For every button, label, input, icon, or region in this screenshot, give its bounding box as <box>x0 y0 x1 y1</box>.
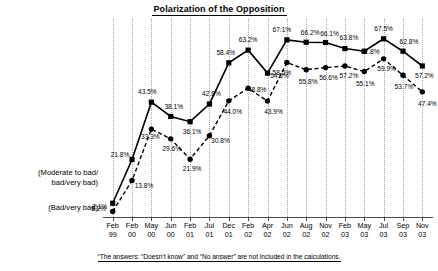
axis-caption-moderate-line1: (Moderate to bad/ <box>4 168 98 178</box>
data-point-circle <box>342 63 347 68</box>
data-label: 63.2% <box>239 37 258 44</box>
data-point-square <box>246 48 251 53</box>
data-label: 55.1% <box>356 80 375 87</box>
data-label: 66.1% <box>320 30 339 37</box>
data-point-square <box>149 100 154 105</box>
data-point-square <box>207 101 212 106</box>
data-label: 43.5% <box>138 89 157 96</box>
x-axis-label: Feb01 <box>184 222 196 239</box>
data-label: 13.8% <box>135 182 154 189</box>
data-label: 21.9% <box>183 166 202 173</box>
data-point-square <box>323 40 328 45</box>
data-label: 38.1% <box>164 104 183 111</box>
data-label: 29.6% <box>162 146 181 153</box>
series-markers-moderate-to-bad <box>110 36 425 206</box>
data-label: 42.8% <box>202 91 221 98</box>
x-axis-label-year: 01 <box>222 231 235 240</box>
chart-title: Polarization of the Opposition <box>0 4 438 16</box>
data-point-square <box>381 36 386 41</box>
data-point-square <box>168 114 173 119</box>
data-point-circle <box>149 126 154 131</box>
data-point-square <box>110 201 115 206</box>
x-axis-label-year: 01 <box>205 231 214 240</box>
x-axis-label: Feb02 <box>242 222 254 239</box>
x-axis-label-year: 02 <box>281 231 293 240</box>
x-axis-label-year: 03 <box>397 231 410 240</box>
x-axis-label-year: 03 <box>339 231 351 240</box>
data-point-square <box>304 40 309 45</box>
plot-area: 5.2%21.8%43.5%38.1%36.1%42.8%58.4%63.2%5… <box>103 19 432 217</box>
x-axis-label: Sep03 <box>397 222 410 239</box>
data-label: 21.8% <box>111 152 130 159</box>
x-axis-label-year: 00 <box>145 231 159 240</box>
x-axis-label-year: 02 <box>300 231 313 240</box>
data-label: 48.8% <box>248 87 267 94</box>
data-label: 67.1% <box>272 27 291 34</box>
data-point-circle <box>304 67 309 72</box>
data-point-circle <box>400 73 405 78</box>
x-axis-label-year: 02 <box>319 231 332 240</box>
data-label: 44.0% <box>223 109 242 116</box>
data-point-circle <box>362 69 367 74</box>
x-axis-label: Feb99 <box>106 222 118 239</box>
data-label: 67.5% <box>374 26 393 33</box>
x-axis-label-year: 00 <box>126 231 138 240</box>
x-axis-label: May03 <box>357 222 371 239</box>
data-point-circle <box>226 98 231 103</box>
axis-caption-moderate: (Moderate to bad/ bad/very bad) <box>4 168 98 187</box>
chart-title-text: Polarization of the Opposition <box>152 4 287 16</box>
x-axis-label-year: 00 <box>165 231 177 240</box>
data-point-circle <box>187 156 192 161</box>
x-axis-label: Feb03 <box>339 222 351 239</box>
data-point-circle <box>381 56 386 61</box>
data-point-circle <box>168 136 173 141</box>
axis-caption-moderate-line2: bad/very bad) <box>4 178 98 188</box>
data-label: 57.2% <box>415 73 434 80</box>
data-label: 66.2% <box>301 30 320 37</box>
data-point-square <box>400 49 405 54</box>
data-point-square <box>342 46 347 51</box>
x-axis-label-year: 03 <box>379 231 388 240</box>
data-label: 56.6% <box>319 74 338 81</box>
data-label: 30.8% <box>211 137 230 144</box>
data-label: 62.8% <box>361 49 380 56</box>
data-label: 63.8% <box>340 34 359 41</box>
data-point-circle <box>110 209 115 214</box>
footnote-text: “The answers: “Doesn’t know” and “No ans… <box>98 253 341 262</box>
data-point-circle <box>284 60 289 65</box>
x-axis-label: Feb00 <box>126 222 138 239</box>
axis-caption-bad: (Bad/very bad) <box>4 203 98 213</box>
data-label: 47.4% <box>418 101 437 108</box>
data-point-square <box>187 119 192 124</box>
chart-screenshot: Polarization of the Opposition 5.2%21.8%… <box>0 0 438 271</box>
x-axis-label: Jul03 <box>379 222 388 239</box>
x-axis-label: Dec01 <box>222 222 235 239</box>
data-point-square <box>284 37 289 42</box>
x-axis-label: Apr02 <box>262 222 273 239</box>
data-label: 62.8% <box>400 39 419 46</box>
data-label: 43.9% <box>264 109 283 116</box>
data-label: 55.8% <box>299 78 318 85</box>
x-axis-label: May00 <box>145 222 159 239</box>
x-axis-label-year: 03 <box>416 231 429 240</box>
footnote: “The answers: “Doesn’t know” and “No ans… <box>0 253 438 262</box>
data-point-circle <box>323 65 328 70</box>
x-axis-label: Jul01 <box>205 222 214 239</box>
data-label: 58.5% <box>272 69 291 76</box>
x-axis-label: Jun02 <box>281 222 293 239</box>
data-label: 59.9% <box>377 66 396 73</box>
x-axis-label-year: 03 <box>357 231 371 240</box>
x-axis-label: Aug02 <box>300 222 313 239</box>
data-point-circle <box>265 98 270 103</box>
x-axis-label: Nov03 <box>416 222 429 239</box>
data-label: 58.4% <box>216 50 235 57</box>
x-axis-label-year: 99 <box>106 231 118 240</box>
x-axis-label-year: 01 <box>184 231 196 240</box>
axis-caption-bad-text: (Bad/very bad) <box>4 203 98 213</box>
data-label: 53.7% <box>395 84 414 91</box>
x-axis-label: Jun00 <box>165 222 177 239</box>
data-point-square <box>226 60 231 65</box>
data-label: 33.3% <box>141 134 160 141</box>
x-axis-label-year: 02 <box>242 231 254 240</box>
series-line-moderate-to-bad <box>113 39 423 203</box>
